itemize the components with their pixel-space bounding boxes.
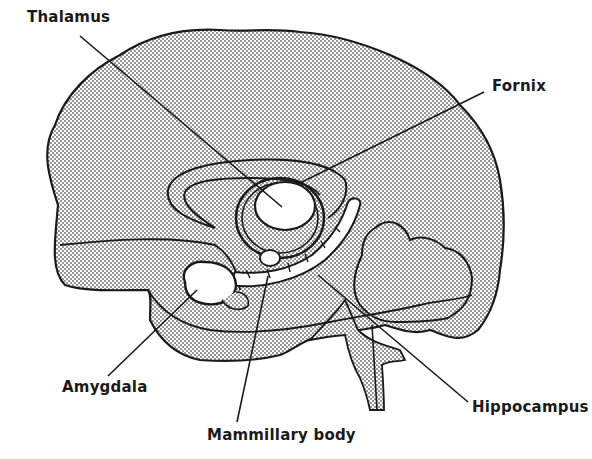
label-fornix: Fornix [492, 79, 546, 94]
brain-limbic-diagram: Thalamus Fornix Amygdala Mammillary body… [0, 0, 592, 459]
label-thalamus: Thalamus [27, 10, 110, 25]
mammillary-body-shape [260, 250, 280, 266]
thalamus-shape [255, 182, 315, 230]
label-mammillary-body: Mammillary body [207, 428, 356, 443]
label-amygdala: Amygdala [62, 380, 147, 395]
label-hippocampus: Hippocampus [472, 400, 589, 415]
